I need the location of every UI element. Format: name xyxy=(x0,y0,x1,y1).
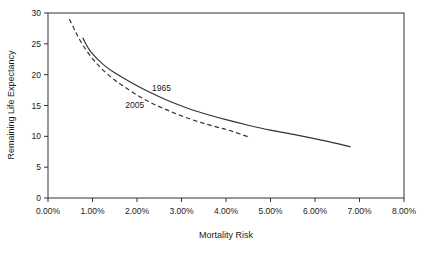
x-tick-label: 4.00% xyxy=(214,206,239,216)
y-tick-label: 25 xyxy=(32,39,42,49)
y-axis-ticks xyxy=(44,13,48,198)
plot-area-frame xyxy=(48,13,404,198)
x-tick-label: 3.00% xyxy=(169,206,194,216)
x-tick-label: 8.00% xyxy=(392,206,417,216)
x-tick-label: 0.00% xyxy=(36,206,61,216)
y-axis-tick-labels: 051015202530 xyxy=(32,8,42,203)
y-axis-title: Remaining Life Expectancy xyxy=(6,50,16,160)
chart-figure: 0.00%1.00%2.00%3.00%4.00%5.00%6.00%7.00%… xyxy=(0,0,429,259)
y-tick-label: 0 xyxy=(36,193,41,203)
series-label-1965: 1965 xyxy=(152,83,171,93)
x-axis-tick-labels: 0.00%1.00%2.00%3.00%4.00%5.00%6.00%7.00%… xyxy=(36,206,417,216)
x-tick-label: 1.00% xyxy=(80,206,105,216)
y-tick-label: 5 xyxy=(36,162,41,172)
series-label-2005: 2005 xyxy=(125,100,144,110)
y-tick-label: 10 xyxy=(32,131,42,141)
x-tick-label: 5.00% xyxy=(258,206,283,216)
x-axis-title: Mortality Risk xyxy=(199,230,254,240)
y-tick-label: 20 xyxy=(32,70,42,80)
x-tick-label: 7.00% xyxy=(347,206,372,216)
line-chart: 0.00%1.00%2.00%3.00%4.00%5.00%6.00%7.00%… xyxy=(0,0,429,259)
y-tick-label: 15 xyxy=(32,101,42,111)
x-tick-label: 2.00% xyxy=(125,206,150,216)
x-tick-label: 6.00% xyxy=(303,206,328,216)
x-axis-ticks xyxy=(48,198,404,202)
y-tick-label: 30 xyxy=(32,8,42,18)
